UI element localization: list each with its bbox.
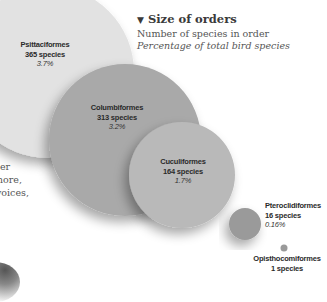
order-name: Psittaciformes — [5, 40, 85, 50]
species-percent: 3.7% — [5, 59, 85, 69]
legend-species-key: Number of species in order — [137, 28, 290, 40]
bubble-opisthocomiformes — [281, 245, 288, 252]
order-name: Columbiformes — [77, 103, 157, 113]
order-name: Opisthocomiformes — [247, 254, 327, 264]
species-count: 1 species — [247, 264, 327, 274]
species-count: 313 species — [77, 113, 157, 123]
triangle-down-icon: ▼ — [137, 15, 144, 25]
body-line: more, — [0, 173, 29, 186]
label-cuculiformes: Cuculiformes 164 species 1.7% — [143, 157, 223, 186]
bubble-pteroclidiformes — [229, 208, 261, 240]
order-name: Pteroclidiformes — [265, 201, 327, 211]
species-count: 16 species — [265, 211, 327, 221]
species-count: 365 species — [5, 50, 85, 60]
legend-percent-key: Percentage of total bird species — [137, 40, 290, 52]
label-psittaciformes: Psittaciformes 365 species 3.7% — [5, 40, 85, 69]
label-pteroclidiformes: Pteroclidiformes 16 species 0.16% — [265, 201, 327, 230]
cropped-body-text: er more, voices, — [0, 160, 29, 199]
species-percent: 3.2% — [77, 122, 157, 132]
order-name: Cuculiformes — [143, 157, 223, 167]
legend-title-text: Size of orders — [148, 12, 237, 26]
species-count: 164 species — [143, 167, 223, 177]
species-percent: 1.7% — [143, 176, 223, 186]
legend-title: ▼ Size of orders — [137, 12, 290, 28]
body-line: voices, — [0, 186, 29, 199]
label-columbiformes: Columbiformes 313 species 3.2% — [77, 103, 157, 132]
species-percent: 0.16% — [265, 220, 327, 230]
legend: ▼ Size of orders Number of species in or… — [137, 12, 290, 52]
label-opisthocomiformes: Opisthocomiformes 1 species — [247, 254, 327, 273]
body-line: er — [0, 160, 29, 173]
